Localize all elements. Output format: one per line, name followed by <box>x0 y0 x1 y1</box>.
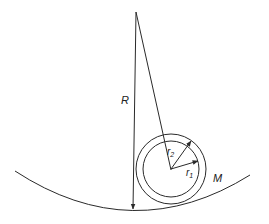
rolling-ring-diagram: R r2 r1 M <box>0 0 269 224</box>
label-M: M <box>213 172 223 184</box>
label-r2: r2 <box>167 146 174 158</box>
radius-R-line <box>133 12 136 209</box>
label-r1: r1 <box>186 167 193 179</box>
label-R: R <box>121 94 129 106</box>
r1-arrow <box>171 161 198 169</box>
diagram-canvas: R r2 r1 M <box>0 0 269 224</box>
pivot-to-center-line <box>136 12 171 170</box>
